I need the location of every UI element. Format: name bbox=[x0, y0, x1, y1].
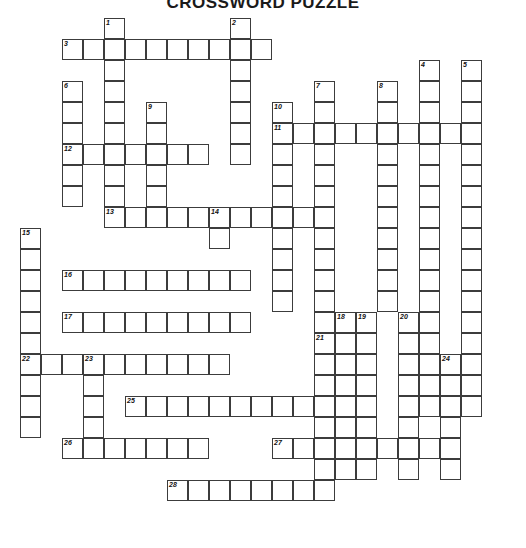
grid-cell[interactable] bbox=[398, 417, 419, 438]
grid-cell[interactable] bbox=[461, 375, 482, 396]
grid-cell-numbered[interactable]: 24 bbox=[440, 354, 461, 375]
grid-cell[interactable] bbox=[104, 270, 125, 291]
grid-cell[interactable] bbox=[440, 417, 461, 438]
grid-cell[interactable] bbox=[335, 459, 356, 480]
grid-cell[interactable] bbox=[146, 270, 167, 291]
grid-cell[interactable] bbox=[335, 123, 356, 144]
grid-cell[interactable] bbox=[356, 417, 377, 438]
grid-cell[interactable] bbox=[188, 438, 209, 459]
grid-cell[interactable] bbox=[230, 396, 251, 417]
grid-cell[interactable] bbox=[251, 39, 272, 60]
grid-cell[interactable] bbox=[167, 312, 188, 333]
grid-cell[interactable] bbox=[398, 354, 419, 375]
grid-cell[interactable] bbox=[209, 354, 230, 375]
grid-cell[interactable] bbox=[188, 354, 209, 375]
grid-cell[interactable] bbox=[125, 438, 146, 459]
grid-cell[interactable] bbox=[20, 291, 41, 312]
grid-cell[interactable] bbox=[419, 123, 440, 144]
grid-cell[interactable] bbox=[356, 438, 377, 459]
grid-cell[interactable] bbox=[377, 144, 398, 165]
grid-cell[interactable] bbox=[104, 39, 125, 60]
grid-cell[interactable] bbox=[146, 123, 167, 144]
grid-cell[interactable] bbox=[377, 207, 398, 228]
grid-cell[interactable] bbox=[125, 144, 146, 165]
grid-cell-numbered[interactable]: 11 bbox=[272, 123, 293, 144]
grid-cell[interactable] bbox=[146, 354, 167, 375]
grid-cell[interactable] bbox=[125, 354, 146, 375]
grid-cell[interactable] bbox=[83, 438, 104, 459]
grid-cell[interactable] bbox=[419, 144, 440, 165]
grid-cell-numbered[interactable]: 23 bbox=[83, 354, 104, 375]
grid-cell-numbered[interactable]: 19 bbox=[356, 312, 377, 333]
grid-cell[interactable] bbox=[377, 291, 398, 312]
grid-cell[interactable] bbox=[272, 480, 293, 501]
grid-cell[interactable] bbox=[230, 60, 251, 81]
grid-cell[interactable] bbox=[209, 312, 230, 333]
grid-cell[interactable] bbox=[83, 312, 104, 333]
grid-cell[interactable] bbox=[272, 207, 293, 228]
grid-cell[interactable] bbox=[314, 459, 335, 480]
grid-cell[interactable] bbox=[230, 480, 251, 501]
grid-cell[interactable] bbox=[419, 333, 440, 354]
grid-cell-numbered[interactable]: 8 bbox=[377, 81, 398, 102]
grid-cell-numbered[interactable]: 25 bbox=[125, 396, 146, 417]
grid-cell[interactable] bbox=[83, 39, 104, 60]
grid-cell-numbered[interactable]: 28 bbox=[167, 480, 188, 501]
grid-cell[interactable] bbox=[440, 123, 461, 144]
grid-cell[interactable] bbox=[230, 81, 251, 102]
grid-cell[interactable] bbox=[419, 165, 440, 186]
grid-cell[interactable] bbox=[188, 144, 209, 165]
grid-cell[interactable] bbox=[398, 459, 419, 480]
grid-cell[interactable] bbox=[335, 333, 356, 354]
grid-cell[interactable] bbox=[377, 186, 398, 207]
grid-cell-numbered[interactable]: 10 bbox=[272, 102, 293, 123]
grid-cell[interactable] bbox=[272, 228, 293, 249]
grid-cell[interactable] bbox=[125, 39, 146, 60]
grid-cell[interactable] bbox=[419, 270, 440, 291]
grid-cell[interactable] bbox=[377, 270, 398, 291]
grid-cell[interactable] bbox=[167, 144, 188, 165]
grid-cell[interactable] bbox=[209, 396, 230, 417]
grid-cell[interactable] bbox=[20, 312, 41, 333]
grid-cell[interactable] bbox=[440, 438, 461, 459]
grid-cell[interactable] bbox=[314, 165, 335, 186]
grid-cell[interactable] bbox=[125, 270, 146, 291]
grid-cell[interactable] bbox=[146, 165, 167, 186]
grid-cell[interactable] bbox=[314, 228, 335, 249]
grid-cell[interactable] bbox=[461, 228, 482, 249]
grid-cell[interactable] bbox=[83, 375, 104, 396]
grid-cell[interactable] bbox=[461, 333, 482, 354]
grid-cell[interactable] bbox=[62, 123, 83, 144]
grid-cell[interactable] bbox=[209, 39, 230, 60]
grid-cell[interactable] bbox=[398, 396, 419, 417]
grid-cell[interactable] bbox=[461, 144, 482, 165]
grid-cell-numbered[interactable]: 14 bbox=[209, 207, 230, 228]
grid-cell[interactable] bbox=[125, 207, 146, 228]
grid-cell[interactable] bbox=[272, 396, 293, 417]
grid-cell[interactable] bbox=[461, 270, 482, 291]
grid-cell[interactable] bbox=[104, 102, 125, 123]
grid-cell[interactable] bbox=[146, 312, 167, 333]
grid-cell[interactable] bbox=[83, 144, 104, 165]
grid-cell[interactable] bbox=[20, 333, 41, 354]
grid-cell[interactable] bbox=[272, 165, 293, 186]
grid-cell[interactable] bbox=[272, 291, 293, 312]
grid-cell[interactable] bbox=[41, 354, 62, 375]
grid-cell[interactable] bbox=[188, 480, 209, 501]
grid-cell[interactable] bbox=[461, 312, 482, 333]
grid-cell[interactable] bbox=[104, 144, 125, 165]
grid-cell[interactable] bbox=[461, 186, 482, 207]
grid-cell[interactable] bbox=[167, 438, 188, 459]
grid-cell[interactable] bbox=[146, 207, 167, 228]
grid-cell[interactable] bbox=[209, 480, 230, 501]
grid-cell[interactable] bbox=[356, 123, 377, 144]
grid-cell[interactable] bbox=[272, 249, 293, 270]
grid-cell[interactable] bbox=[461, 207, 482, 228]
grid-cell[interactable] bbox=[272, 186, 293, 207]
grid-cell[interactable] bbox=[356, 459, 377, 480]
grid-cell[interactable] bbox=[461, 396, 482, 417]
grid-cell[interactable] bbox=[419, 102, 440, 123]
grid-cell[interactable] bbox=[230, 207, 251, 228]
grid-cell[interactable] bbox=[377, 123, 398, 144]
grid-cell[interactable] bbox=[335, 354, 356, 375]
